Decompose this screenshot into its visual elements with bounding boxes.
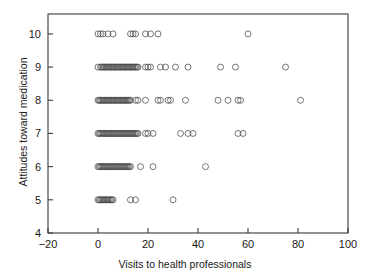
x-tick-label: 0	[95, 238, 101, 250]
y-tick-label: 7	[35, 127, 41, 139]
x-tick-label: 20	[142, 238, 154, 250]
y-tick-label: 8	[35, 94, 41, 106]
x-tick-label: 100	[339, 238, 357, 250]
x-axis-title: Visits to health professionals	[119, 258, 252, 270]
y-tick-label: 4	[35, 227, 41, 239]
chart-background	[0, 0, 370, 277]
y-axis-title: Attitudes toward medication	[17, 57, 29, 186]
y-tick-label: 5	[35, 194, 41, 206]
scatter-plot-figure: −20020406080100 45678910 Visits to healt…	[0, 0, 370, 277]
x-tick-label: −20	[39, 238, 58, 250]
x-tick-label: 80	[292, 238, 304, 250]
y-tick-label: 10	[29, 28, 41, 40]
y-tick-label: 9	[35, 61, 41, 73]
x-tick-label: 60	[242, 238, 254, 250]
x-tick-label: 40	[192, 238, 204, 250]
chart-canvas: −20020406080100 45678910 Visits to healt…	[0, 0, 370, 277]
y-tick-label: 6	[35, 161, 41, 173]
